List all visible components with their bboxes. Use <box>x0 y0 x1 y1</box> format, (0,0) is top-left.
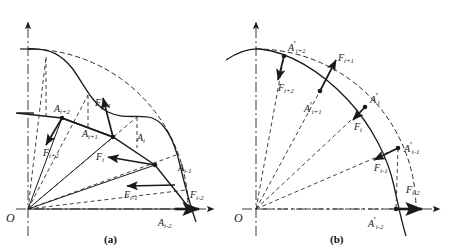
vector-F-i-plus-2 <box>278 56 284 80</box>
radial-dashed-4 <box>256 148 398 209</box>
label-A-prime-i-plus-2: A'i+2 <box>288 41 306 55</box>
vector-F-i-plus-2 <box>46 118 62 145</box>
label-A-prime-i: A'i <box>370 93 380 107</box>
label-A-prime-i-minus-1: A'i-1 <box>404 142 419 156</box>
origin-label-b: O <box>234 212 243 224</box>
figure-container: O Ai+2 Ai+1 Ai Ai-1 Ai-2 Fi+2 Fi+1 Fi Fi… <box>0 0 452 251</box>
radial-dashed-1 <box>256 56 284 209</box>
label-F-i-minus-1: Fi-1 <box>124 190 138 202</box>
vector-F-i-minus-1 <box>374 148 398 160</box>
panel-a-drawing <box>0 0 226 251</box>
radial-solid-3 <box>28 165 155 209</box>
label-F-i-minus-1: Fi-1 <box>374 163 388 175</box>
label-A-prime-i-minus-2: A'i-2 <box>368 217 383 231</box>
radial-dashed-3 <box>256 107 365 209</box>
label-A-prime-i-plus-1: A'i+1 <box>304 102 322 116</box>
label-F-i-plus-2: Fi+2 <box>278 83 294 95</box>
label-F-i-plus-1: Fi+1 <box>338 53 354 65</box>
label-F-i-plus-2: Fi+2 <box>43 148 59 160</box>
label-F-i-plus-1: Fi+1 <box>95 98 111 110</box>
label-A-i: Ai <box>137 133 145 145</box>
label-A-i-plus-2: Ai+2 <box>54 104 70 116</box>
label-F-i-minus-2: Fi-2 <box>406 185 420 197</box>
panel-a: O Ai+2 Ai+1 Ai Ai-1 Ai-2 Fi+2 Fi+1 Fi Fi… <box>0 0 226 251</box>
caption-a: (a) <box>104 233 117 245</box>
origin-label-a: O <box>6 212 15 224</box>
vector-F-i-minus-1 <box>127 185 175 186</box>
label-F-i-minus-2: Fi-2 <box>190 190 204 202</box>
main-curve <box>226 49 406 236</box>
label-A-i-minus-2: Ai-2 <box>158 218 172 230</box>
caption-b: (b) <box>330 233 343 245</box>
label-A-i-plus-1: Ai+1 <box>82 129 98 141</box>
radial-dashed-5 <box>28 190 186 209</box>
panel-b-drawing <box>226 0 452 251</box>
label-F-i: Fi <box>354 122 362 134</box>
label-F-i: Fi <box>96 152 104 164</box>
label-A-i-minus-1: Ai-1 <box>178 163 192 175</box>
panel-b: O A'i+2 A'i+1 A'i A'i-1 A'i-2 Fi+2 Fi+1 … <box>226 0 452 251</box>
